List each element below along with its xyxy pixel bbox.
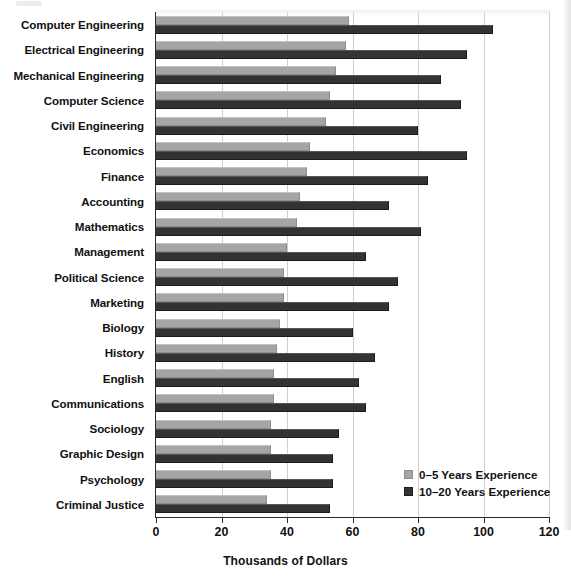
tick-mark-0 <box>156 518 157 523</box>
category-label: Management <box>0 245 144 258</box>
bar-light <box>156 218 297 227</box>
bar-group <box>156 290 549 315</box>
bar-dark <box>156 50 467 59</box>
bar-dark <box>156 454 333 463</box>
bar-light <box>156 445 271 454</box>
bar-group <box>156 88 549 113</box>
category-label: Computer Science <box>0 94 144 107</box>
tick-label-80: 80 <box>396 525 440 539</box>
bar-light <box>156 41 346 50</box>
tick-label-40: 40 <box>265 525 309 539</box>
legend-label-0-5-years: 0–5 Years Experience <box>419 468 537 481</box>
bar-light <box>156 369 274 378</box>
bar-light <box>156 142 310 151</box>
bar-dark <box>156 504 330 513</box>
bar-light <box>156 394 274 403</box>
bar-group <box>156 164 549 189</box>
tick-label-0: 0 <box>134 525 178 539</box>
bar-group <box>156 315 549 340</box>
tick-mark-60 <box>353 518 354 523</box>
bar-dark <box>156 479 333 488</box>
bar-group <box>156 265 549 290</box>
bar-light <box>156 243 287 252</box>
legend-item-10-20-years: 10–20 Years Experience <box>404 483 564 499</box>
bar-group <box>156 366 549 391</box>
bar-dark <box>156 25 493 34</box>
bar-dark <box>156 302 389 311</box>
plot-top-shadow <box>156 10 550 16</box>
category-label: Mathematics <box>0 220 144 233</box>
tick-mark-80 <box>418 518 419 523</box>
bar-group <box>156 113 549 138</box>
bar-dark <box>156 75 441 84</box>
tick-mark-40 <box>287 518 288 523</box>
bar-dark <box>156 378 359 387</box>
tick-mark-100 <box>484 518 485 523</box>
bar-light <box>156 420 271 429</box>
bar-dark <box>156 100 461 109</box>
category-label: Political Science <box>0 271 144 284</box>
category-label: Finance <box>0 170 144 183</box>
category-label: History <box>0 346 144 359</box>
legend: 0–5 Years Experience 10–20 Years Experie… <box>404 466 564 500</box>
category-label: Electrical Engineering <box>0 43 144 56</box>
bar-dark <box>156 252 366 261</box>
bar-group <box>156 37 549 62</box>
plot-area <box>156 12 549 517</box>
bar-dark <box>156 277 398 286</box>
category-label: Sociology <box>0 422 144 435</box>
bar-dark <box>156 126 418 135</box>
category-label: Economics <box>0 144 144 157</box>
bar-dark <box>156 429 339 438</box>
category-label: Graphic Design <box>0 447 144 460</box>
category-label: Biology <box>0 321 144 334</box>
bar-group <box>156 239 549 264</box>
category-label: Computer Engineering <box>0 18 144 31</box>
category-label: Marketing <box>0 296 144 309</box>
gridline-120 <box>549 12 550 517</box>
bar-light <box>156 293 284 302</box>
legend-item-0-5-years: 0–5 Years Experience <box>404 466 564 482</box>
bar-group <box>156 138 549 163</box>
bar-dark <box>156 151 467 160</box>
category-label: Communications <box>0 397 144 410</box>
bar-dark <box>156 328 353 337</box>
category-label: English <box>0 372 144 385</box>
scan-artifact <box>16 1 42 6</box>
bar-group <box>156 416 549 441</box>
bar-group <box>156 63 549 88</box>
legend-label-10-20-years: 10–20 Years Experience <box>419 485 550 498</box>
bar-dark <box>156 176 428 185</box>
bar-light <box>156 319 280 328</box>
bar-light <box>156 66 336 75</box>
category-label: Accounting <box>0 195 144 208</box>
tick-label-100: 100 <box>462 525 506 539</box>
bar-dark <box>156 403 366 412</box>
legend-swatch-icon-light <box>404 470 413 479</box>
bar-light <box>156 167 307 176</box>
tick-mark-120 <box>549 518 550 523</box>
bar-dark <box>156 353 375 362</box>
bar-dark <box>156 201 389 210</box>
legend-swatch-icon-dark <box>404 487 413 496</box>
bar-light <box>156 91 330 100</box>
tick-label-60: 60 <box>331 525 375 539</box>
bar-light <box>156 495 267 504</box>
bar-group <box>156 340 549 365</box>
x-axis-title: Thousands of Dollars <box>0 554 571 568</box>
category-axis-labels: Computer EngineeringElectrical Engineeri… <box>0 12 148 517</box>
page-edge-shadow <box>562 0 571 530</box>
category-label: Psychology <box>0 473 144 486</box>
category-label: Mechanical Engineering <box>0 69 144 82</box>
tick-label-20: 20 <box>200 525 244 539</box>
bar-light <box>156 16 349 25</box>
category-label: Criminal Justice <box>0 498 144 511</box>
bar-group <box>156 189 549 214</box>
bar-group <box>156 214 549 239</box>
bar-light <box>156 268 284 277</box>
bar-chart: Computer EngineeringElectrical Engineeri… <box>0 0 571 580</box>
tick-mark-20 <box>222 518 223 523</box>
bar-light <box>156 470 271 479</box>
bar-group <box>156 391 549 416</box>
bar-light <box>156 117 326 126</box>
